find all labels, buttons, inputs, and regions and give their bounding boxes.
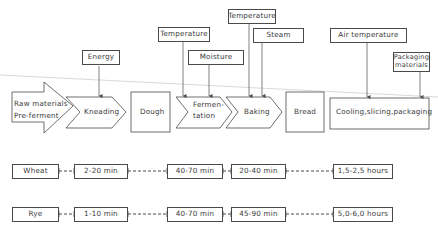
fermentation-label-1: Fermen-	[193, 101, 224, 109]
duration-label: 5,0-6,0 hours	[338, 210, 389, 218]
cooling-label: Cooling,slicing,packaging	[336, 108, 432, 116]
input-temperature-baking-label: Temperature	[228, 12, 276, 20]
input-steam: Steam	[253, 28, 304, 43]
raw-materials-label: Raw materials	[14, 100, 68, 108]
grain-label: Rye	[29, 210, 43, 218]
duration-label: 1,5-2,5 hours	[338, 167, 389, 175]
input-moisture: Moisture	[188, 50, 244, 65]
timeline-wheat-grain: Wheat	[12, 164, 59, 179]
input-packaging-line2: materials	[395, 62, 428, 70]
duration-label: 2-20 min	[84, 167, 118, 175]
timeline-wheat-fermentation: 40-70 min	[167, 164, 223, 179]
input-energy-label: Energy	[88, 53, 114, 61]
input-air-temperature-label: Air temperature	[338, 31, 398, 39]
timeline-rye-cooling: 5,0-6,0 hours	[333, 207, 393, 222]
input-temperature-fermentation: Temperature	[158, 27, 210, 42]
faint-diagonal-line	[0, 75, 438, 97]
input-temperature-fermentation-label: Temperature	[160, 30, 208, 38]
timeline-rye-fermentation: 40-70 min	[167, 207, 223, 222]
fermentation-label-2: tation	[193, 112, 215, 120]
baking-label: Baking	[244, 108, 270, 116]
input-temperature-baking: Temperature	[228, 9, 276, 24]
pre-ferment-label: Pre-ferment	[14, 112, 59, 120]
duration-label: 20-40 min	[239, 167, 278, 175]
timeline-rye-baking: 45-90 min	[231, 207, 286, 222]
input-moisture-label: Moisture	[200, 53, 233, 61]
timeline-rye-kneading: 1-10 min	[74, 207, 128, 222]
input-steam-label: Steam	[266, 31, 290, 39]
input-air-temperature: Air temperature	[330, 28, 407, 43]
grain-label: Wheat	[23, 167, 47, 175]
input-packaging-materials: Packaging materials	[393, 52, 430, 72]
duration-label: 45-90 min	[239, 210, 278, 218]
duration-label: 40-70 min	[176, 167, 215, 175]
duration-label: 1-10 min	[84, 210, 118, 218]
duration-label: 40-70 min	[176, 210, 215, 218]
timeline-rye-grain: Rye	[12, 207, 59, 222]
timeline-wheat-baking: 20-40 min	[231, 164, 286, 179]
timeline-wheat-cooling: 1,5-2,5 hours	[333, 164, 393, 179]
input-energy: Energy	[82, 50, 120, 65]
kneading-label: Kneading	[84, 108, 119, 116]
dough-label: Dough	[140, 108, 165, 116]
timeline-wheat-kneading: 2-20 min	[74, 164, 128, 179]
bread-label: Bread	[294, 108, 316, 116]
